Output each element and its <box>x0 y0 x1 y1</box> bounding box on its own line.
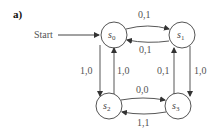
panel-label: a) <box>13 8 23 21</box>
edge-label-s1-s0: 0,1 <box>139 44 152 55</box>
edge-label-s3-s2: 1,1 <box>137 117 150 128</box>
state-diagram: a) Start s0 s1 s2 s3 0,1 0,1 1,0 1,0 0,1… <box>0 0 220 133</box>
edge-s1-s0 <box>127 40 169 42</box>
state-s1: s1 <box>169 22 195 48</box>
edge-s3-s2 <box>122 112 166 114</box>
edge-label-s2-s3: 0,0 <box>136 84 149 95</box>
edge-label-s3-s1: 0,1 <box>157 65 170 76</box>
edge-label-s0-s2: 1,0 <box>80 65 93 76</box>
state-s3: s3 <box>165 93 191 119</box>
state-s2: s2 <box>96 93 122 119</box>
svg-text:s1: s1 <box>177 29 185 42</box>
edge-label-s0-s1: 0,1 <box>138 9 151 20</box>
svg-text:s0: s0 <box>108 29 116 42</box>
start-label: Start <box>34 29 53 40</box>
edge-s2-s3 <box>121 98 165 100</box>
state-s0: s0 <box>101 22 127 48</box>
edge-s0-s1 <box>126 26 169 29</box>
svg-text:s3: s3 <box>172 100 180 113</box>
edge-label-s2-s0: 1,0 <box>117 65 130 76</box>
edge-label-s1-s3: 1,0 <box>194 65 207 76</box>
svg-text:s2: s2 <box>103 100 111 113</box>
